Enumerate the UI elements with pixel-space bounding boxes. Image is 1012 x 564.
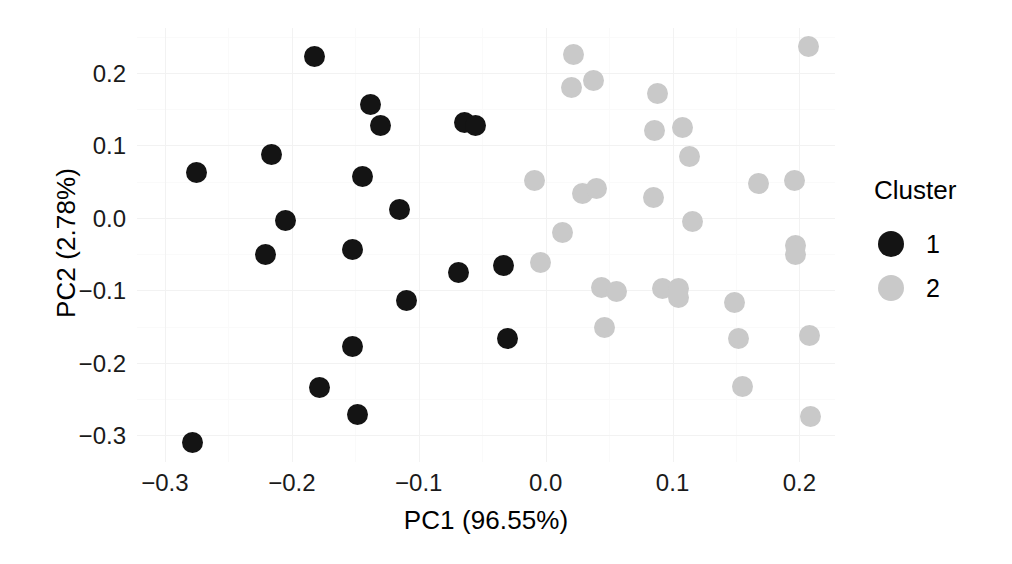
legend-item-label: 2	[926, 274, 940, 303]
legend-item-cluster-1[interactable]: 1	[872, 222, 1012, 266]
x-tick-label: 0.0	[501, 469, 591, 497]
data-point	[728, 328, 749, 349]
data-point	[465, 115, 486, 136]
x-tick-label: −0.1	[374, 469, 464, 497]
legend-item-label: 1	[926, 230, 940, 259]
legend-swatch-circle-icon	[878, 275, 904, 301]
data-point	[347, 404, 368, 425]
plot-panel	[137, 28, 835, 462]
gridline-vertical	[165, 28, 166, 462]
data-point	[732, 376, 753, 397]
data-point	[800, 406, 821, 427]
data-point	[643, 187, 664, 208]
data-point	[724, 292, 745, 313]
legend-title: Cluster	[874, 175, 1012, 206]
data-point	[261, 144, 282, 165]
x-tick-label: −0.2	[247, 469, 337, 497]
data-point	[396, 290, 417, 311]
gridline-horizontal-minor	[137, 399, 835, 400]
legend-swatch-circle-icon	[878, 231, 904, 257]
data-point	[563, 44, 584, 65]
data-point	[352, 166, 373, 187]
data-point	[785, 244, 806, 265]
data-point	[342, 239, 363, 260]
gridline-horizontal	[137, 290, 835, 291]
gridline-vertical	[292, 28, 293, 462]
legend-item-cluster-2[interactable]: 2	[872, 266, 1012, 310]
x-tick-label: 0.1	[628, 469, 718, 497]
x-axis-title: PC1 (96.55%)	[137, 505, 835, 536]
data-point	[255, 244, 276, 265]
data-point	[497, 328, 518, 349]
data-point	[644, 120, 665, 141]
data-point	[748, 173, 769, 194]
data-point	[682, 211, 703, 232]
gridline-vertical	[673, 28, 674, 462]
data-point	[186, 162, 207, 183]
data-point	[304, 46, 325, 67]
gridline-horizontal-minor	[137, 327, 835, 328]
data-point	[672, 117, 693, 138]
gridline-vertical	[546, 28, 547, 462]
gridline-horizontal	[137, 145, 835, 146]
data-point	[309, 377, 330, 398]
scatter-plot: 0.20.10.0−0.1−0.2−0.3 −0.3−0.2−0.10.00.1…	[0, 0, 1012, 564]
gridline-horizontal-minor	[137, 182, 835, 183]
data-point	[182, 432, 203, 453]
legend: Cluster 1 2	[872, 175, 1012, 310]
data-point	[583, 70, 604, 91]
data-point	[606, 281, 627, 302]
x-tick-label: −0.3	[120, 469, 210, 497]
x-tick-label: 0.2	[754, 469, 844, 497]
data-point	[668, 287, 689, 308]
data-point	[586, 178, 607, 199]
data-point	[552, 222, 573, 243]
data-point	[647, 83, 668, 104]
data-point	[561, 77, 582, 98]
data-point	[524, 170, 545, 191]
gridline-vertical-minor	[482, 28, 483, 462]
gridline-horizontal	[137, 363, 835, 364]
y-axis-title: PC2 (2.78%)	[44, 0, 88, 486]
gridline-vertical-minor	[228, 28, 229, 462]
data-point	[448, 262, 469, 283]
data-point	[784, 170, 805, 191]
gridline-horizontal	[137, 218, 835, 219]
data-point	[530, 252, 551, 273]
data-point	[799, 325, 820, 346]
data-point	[360, 94, 381, 115]
gridline-horizontal-minor	[137, 37, 835, 38]
data-point	[370, 115, 391, 136]
gridline-vertical-minor	[609, 28, 610, 462]
data-point	[493, 255, 514, 276]
data-point	[342, 336, 363, 357]
gridline-vertical	[419, 28, 420, 462]
data-point	[798, 36, 819, 57]
gridline-horizontal-minor	[137, 109, 835, 110]
data-point	[389, 199, 410, 220]
gridline-vertical-minor	[736, 28, 737, 462]
gridline-horizontal-minor	[137, 254, 835, 255]
data-point	[679, 146, 700, 167]
gridline-horizontal	[137, 435, 835, 436]
data-point	[594, 317, 615, 338]
gridline-horizontal	[137, 73, 835, 74]
